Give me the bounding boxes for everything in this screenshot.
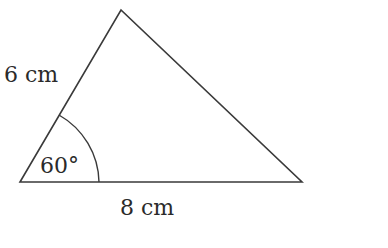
side-bottom-label: 8 cm [120,195,174,220]
side-left-label: 6 cm [4,62,58,87]
triangle-diagram: 6 cm 60° 8 cm [0,0,388,248]
angle-label: 60° [40,153,79,178]
